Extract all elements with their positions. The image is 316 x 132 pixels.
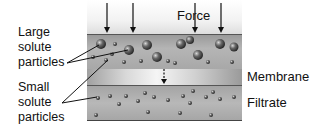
small-particle — [124, 94, 128, 98]
large-particle — [230, 43, 239, 52]
small-particle — [139, 59, 143, 63]
small-particle — [206, 60, 210, 64]
small-particle — [152, 95, 156, 99]
small-particle — [143, 91, 147, 95]
large-particle — [215, 39, 225, 49]
small-particle — [166, 98, 170, 102]
small-particle — [178, 111, 182, 115]
small-particle — [108, 94, 112, 98]
small-particle — [136, 99, 140, 103]
leader-lines — [62, 45, 128, 103]
small-particle — [122, 60, 126, 64]
small-particle — [113, 42, 117, 46]
small-particle — [146, 110, 150, 114]
membrane-label: Membrane — [247, 70, 309, 84]
large-particle — [142, 40, 152, 50]
small-particle — [209, 113, 213, 117]
small-particle — [188, 101, 192, 105]
small-particle — [232, 95, 236, 99]
large-particle — [152, 52, 162, 62]
large-particle — [193, 50, 203, 60]
small-particle — [94, 113, 98, 117]
small-particle — [181, 94, 185, 98]
large-particle — [96, 39, 106, 49]
large-particles — [96, 36, 239, 62]
large-particle — [124, 45, 134, 55]
small-particle — [211, 90, 215, 94]
large-particle — [186, 36, 194, 44]
small-particle — [173, 61, 177, 65]
small-particle — [204, 95, 208, 99]
small-particle — [166, 59, 170, 63]
small-particle — [117, 102, 121, 106]
force-label: Force — [177, 9, 210, 23]
small-particle — [218, 97, 222, 101]
permeation-arrow-icon — [161, 69, 167, 84]
filtrate-label: Filtrate — [247, 96, 287, 110]
small-particle — [191, 89, 195, 93]
large-particle — [176, 39, 186, 49]
small-particle — [230, 60, 234, 64]
